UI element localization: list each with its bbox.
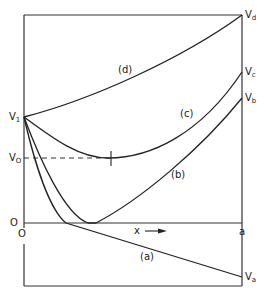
curve-b-label: (b) bbox=[171, 169, 185, 180]
x-arrow-head-icon bbox=[158, 229, 167, 234]
vc-label: Vc bbox=[245, 66, 256, 79]
potential-diagram: x O O a V1 VO (d) (c) (b) (a) Vd Vc Vb V… bbox=[0, 0, 268, 297]
vd-label: Vd bbox=[245, 9, 256, 22]
va-label: Va bbox=[245, 271, 256, 284]
x-axis-label: x bbox=[134, 225, 140, 236]
curve-c bbox=[24, 72, 242, 158]
x-end-label: a bbox=[239, 226, 245, 237]
vb-label: Vb bbox=[245, 92, 257, 105]
curve-a-label: (a) bbox=[140, 251, 154, 262]
origin-label-x: O bbox=[18, 228, 26, 239]
curve-c-label: (c) bbox=[180, 108, 193, 119]
curve-d-label: (d) bbox=[118, 64, 132, 75]
origin-label-y: O bbox=[10, 217, 18, 228]
v0-label: VO bbox=[9, 152, 22, 165]
curve-d bbox=[24, 15, 242, 117]
v1-label: V1 bbox=[9, 111, 20, 124]
curve-b bbox=[24, 98, 242, 223]
curve-a bbox=[24, 117, 242, 277]
